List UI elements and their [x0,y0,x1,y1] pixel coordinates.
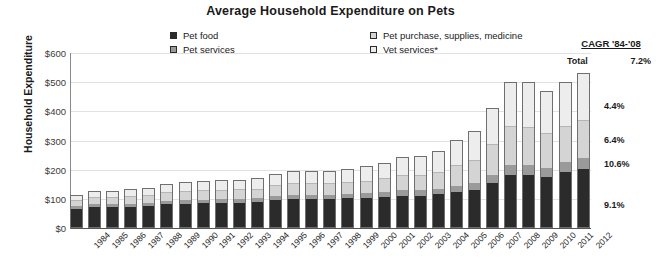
x-tick-label: 2000 [378,230,398,250]
x-tick-label: 1991 [217,230,237,250]
bar-2006[interactable] [468,131,481,228]
bar-segment [523,83,534,127]
x-tick-label: 1998 [343,230,363,250]
bar-1985[interactable] [88,191,101,228]
bar-segment [89,197,100,204]
bar-2003[interactable] [414,156,427,228]
bar-segment [234,203,245,228]
bar-2002[interactable] [396,157,409,228]
bar-segment [198,203,209,227]
x-tick-label: 2007 [504,230,524,250]
x-tick-label: 2004 [450,230,470,250]
bar-1996[interactable] [287,171,300,228]
swatch-lightest-icon [370,46,377,53]
bar-2012[interactable] [577,73,590,228]
x-tick-label: 2008 [522,230,542,250]
x-tick-label: 2006 [486,230,506,250]
bar-segment [306,199,317,227]
bar-segment [107,197,118,204]
bar-1991[interactable] [197,181,210,228]
bar-1997[interactable] [305,171,318,228]
bar-1988[interactable] [142,188,155,228]
bar-1986[interactable] [106,191,119,228]
bar-segment [397,196,408,228]
bar-2001[interactable] [378,163,391,228]
bar-segment [306,183,317,195]
legend-label: Pet purchase, supplies, medicine [383,30,522,41]
bar-segment [379,178,390,192]
bar-2007[interactable] [486,108,499,228]
bar-segment [451,192,462,227]
bar-segment [523,165,534,176]
bar-segment [216,190,227,199]
bar-1998[interactable] [323,171,336,228]
chart-legend: Pet food Pet purchase, supplies, medicin… [170,28,570,56]
bar-2011[interactable] [559,82,572,228]
cagr-segment-value: 9.1% [604,200,625,210]
bar-1994[interactable] [251,178,264,228]
bar-segment [342,198,353,227]
y-tick-label: $0 [55,223,66,234]
bar-segment [451,141,462,166]
bar-segment [578,74,589,120]
bar-segment [288,183,299,195]
bar-segment [143,206,154,227]
bar-1995[interactable] [269,174,282,228]
cagr-segment-value: 10.6% [604,159,630,169]
bar-2010[interactable] [540,91,553,228]
bar-2009[interactable] [522,82,535,228]
bar-segment [161,185,172,193]
bar-segment [523,175,534,227]
bar-1993[interactable] [233,180,246,229]
bar-segment [143,195,154,203]
x-tick-label: 2001 [396,230,416,250]
bar-segment [415,175,426,191]
bar-1984[interactable] [70,195,83,228]
bar-segment [505,165,516,175]
bar-1990[interactable] [179,182,192,228]
bar-segment [252,189,263,199]
bar-segment [487,109,498,144]
bar-1989[interactable] [160,184,173,228]
bar-segment [342,170,353,182]
bar-segment [541,92,552,133]
bar-1987[interactable] [124,189,137,228]
bar-segment [578,120,589,158]
x-tick-label: 1988 [163,230,183,250]
x-tick-label: 1997 [325,230,345,250]
bar-segment [71,209,82,227]
bar-segment [270,185,281,196]
chart-container: Average Household Expenditure on Pets Pe… [0,0,661,274]
cagr-total-value: 7.2% [630,56,651,66]
bar-segment [252,179,263,188]
bar-segment [541,133,552,167]
bar-segment [541,177,552,227]
bar-segment [433,172,444,189]
swatch-mid-icon [170,46,177,53]
bar-segment [216,181,227,190]
x-tick-label: 1984 [91,230,111,250]
x-tick-label: 1995 [289,230,309,250]
bar-1999[interactable] [341,169,354,228]
x-tick-label: 2009 [540,230,560,250]
bar-2004[interactable] [432,151,445,228]
x-tick-label: 2012 [594,230,614,250]
cagr-segment-value: 4.4% [604,101,625,111]
bar-segment [469,160,480,183]
bar-2008[interactable] [504,82,517,228]
x-tick-label: 1986 [127,230,147,250]
bar-segment [487,144,498,174]
swatch-light-icon [370,32,377,39]
bar-segment [560,172,571,227]
bar-1992[interactable] [215,180,228,228]
cagr-heading: CAGR '84-'08 [565,38,657,49]
bar-segment [578,158,589,169]
y-tick-label: $500 [45,77,66,88]
bar-2000[interactable] [360,166,373,228]
bar-2005[interactable] [450,140,463,228]
bar-segment [180,183,191,191]
bar-segment [324,183,335,195]
bar-segment [234,181,245,190]
y-tick-label: $300 [45,135,66,146]
x-tick-label: 1992 [235,230,255,250]
